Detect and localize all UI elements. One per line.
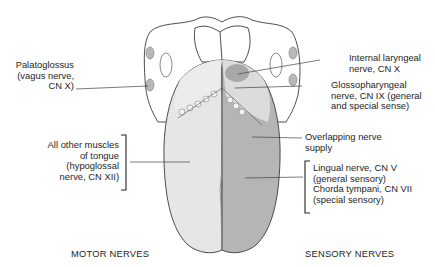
- label-hypoglossal: All other muscles of tongue (hypoglossal…: [0, 140, 119, 182]
- label-line: nerve, CN X: [349, 64, 421, 75]
- label-line: supply: [305, 143, 382, 154]
- label-line: All other muscles: [0, 140, 119, 151]
- label-line: (special sensory): [313, 195, 412, 206]
- label-line: Palatoglossus: [0, 60, 74, 71]
- label-lingual-chorda: Lingual nerve, CN V (general sensory) Ch…: [313, 163, 412, 205]
- label-line: and special sense): [331, 101, 422, 112]
- label-internal-laryngeal: Internal laryngeal nerve, CN X: [349, 53, 421, 74]
- label-line: nerve, CN XII): [0, 172, 119, 183]
- label-line: Overlapping nerve: [305, 132, 382, 143]
- label-line: Glossopharyngeal: [331, 80, 422, 91]
- label-line: CN X): [0, 81, 74, 92]
- label-glossopharyngeal: Glossopharyngeal nerve, CN IX (general a…: [331, 80, 422, 112]
- footer-motor-nerves: MOTOR NERVES: [71, 248, 149, 259]
- label-line: Internal laryngeal: [349, 53, 421, 64]
- label-line: Lingual nerve, CN V: [313, 163, 412, 174]
- footer-sensory-nerves: SENSORY NERVES: [305, 248, 394, 259]
- label-overlapping: Overlapping nerve supply: [305, 132, 382, 153]
- label-palatoglossus: Palatoglossus (vagus nerve, CN X): [0, 60, 74, 92]
